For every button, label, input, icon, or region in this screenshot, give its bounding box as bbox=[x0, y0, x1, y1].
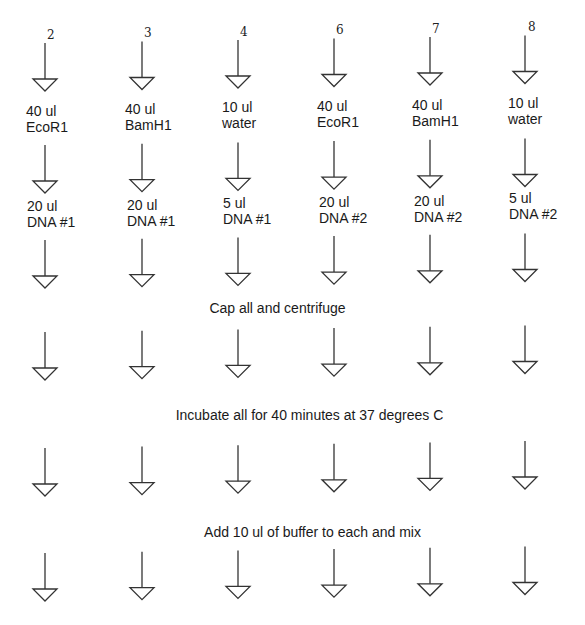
down-arrow-triangle-icon bbox=[33, 43, 57, 91]
down-arrow-triangle-icon bbox=[322, 444, 346, 492]
down-arrow-triangle-icon bbox=[33, 145, 57, 193]
enzyme-name: BamH1 bbox=[125, 117, 172, 133]
tube-number: 4 bbox=[240, 25, 248, 39]
dna-label: 20 ul DNA #2 bbox=[319, 194, 367, 226]
dna-name: DNA #2 bbox=[319, 210, 367, 226]
down-arrow-triangle-icon bbox=[322, 236, 346, 284]
down-arrow-triangle-icon bbox=[513, 234, 537, 282]
down-arrow-triangle-icon bbox=[130, 239, 154, 287]
down-arrow-triangle-icon bbox=[322, 141, 346, 189]
tube-number: 3 bbox=[144, 26, 152, 40]
arrow-head bbox=[130, 275, 154, 287]
arrow-head bbox=[322, 75, 346, 87]
down-arrow-triangle-icon bbox=[33, 240, 57, 288]
arrow-head bbox=[322, 272, 346, 284]
arrow-head bbox=[33, 276, 57, 288]
arrow-head bbox=[513, 362, 537, 374]
dna-volume: 20 ul bbox=[319, 194, 367, 210]
tube-number: 6 bbox=[336, 23, 344, 37]
arrow-head bbox=[130, 588, 154, 600]
arrow-head bbox=[33, 79, 57, 91]
dna-label: 5 ul DNA #1 bbox=[223, 195, 271, 227]
arrow-head bbox=[33, 589, 57, 601]
down-arrow-triangle-icon bbox=[418, 37, 442, 85]
dna-volume: 5 ul bbox=[223, 195, 271, 211]
arrow-head bbox=[33, 368, 57, 380]
down-arrow-triangle-icon bbox=[226, 550, 250, 598]
enzyme-label: 10 ul water bbox=[508, 95, 542, 127]
enzyme-name: BamH1 bbox=[412, 113, 459, 129]
arrow-head bbox=[513, 72, 537, 84]
dna-name: DNA #2 bbox=[509, 206, 557, 222]
dna-name: DNA #1 bbox=[127, 213, 175, 229]
arrow-head bbox=[130, 367, 154, 379]
step-cap-centrifuge: Cap all and centrifuge bbox=[0, 300, 570, 316]
enzyme-name: EcoR1 bbox=[317, 114, 359, 130]
down-arrow-triangle-icon bbox=[418, 140, 442, 188]
down-arrow-triangle-icon bbox=[418, 548, 442, 596]
arrow-head bbox=[322, 364, 346, 376]
dna-label: 20 ul DNA #2 bbox=[414, 193, 462, 225]
arrow-head bbox=[33, 181, 57, 193]
protocol-flow-diagram: 2 3 4 6 7 8 40 ul EcoR1 40 ul BamH1 10 u… bbox=[0, 0, 585, 625]
arrow-head bbox=[130, 483, 154, 495]
enzyme-label: 40 ul BamH1 bbox=[412, 97, 459, 129]
arrow-head bbox=[513, 583, 537, 595]
down-arrow-triangle-icon bbox=[130, 42, 154, 90]
arrow-head bbox=[130, 180, 154, 192]
enzyme-volume: 40 ul bbox=[317, 98, 359, 114]
arrow-head bbox=[418, 363, 442, 375]
enzyme-volume: 40 ul bbox=[412, 97, 459, 113]
arrow-head bbox=[418, 271, 442, 283]
arrow-head bbox=[418, 584, 442, 596]
down-arrow-triangle-icon bbox=[418, 442, 442, 490]
dna-volume: 20 ul bbox=[127, 197, 175, 213]
down-arrow-triangle-icon bbox=[418, 327, 442, 375]
down-arrow-triangle-icon bbox=[322, 549, 346, 597]
dna-volume: 20 ul bbox=[27, 198, 75, 214]
arrow-head bbox=[513, 477, 537, 489]
down-arrow-triangle-icon bbox=[130, 144, 154, 192]
down-arrow-triangle-icon bbox=[130, 447, 154, 495]
enzyme-volume: 10 ul bbox=[222, 99, 256, 115]
arrow-head bbox=[513, 270, 537, 282]
arrow-head bbox=[33, 484, 57, 496]
dna-label: 20 ul DNA #1 bbox=[27, 198, 75, 230]
arrow-head bbox=[418, 73, 442, 85]
arrow-head bbox=[418, 176, 442, 188]
down-arrow-triangle-icon bbox=[513, 547, 537, 595]
down-arrow-triangle-icon bbox=[322, 39, 346, 87]
arrow-head bbox=[226, 273, 250, 285]
tube-number: 2 bbox=[47, 28, 55, 42]
arrow-head bbox=[226, 365, 250, 377]
arrow-head bbox=[226, 76, 250, 88]
down-arrow-triangle-icon bbox=[322, 328, 346, 376]
arrow-head bbox=[226, 586, 250, 598]
enzyme-name: EcoR1 bbox=[26, 119, 68, 135]
enzyme-volume: 40 ul bbox=[125, 101, 172, 117]
down-arrow-triangle-icon bbox=[33, 332, 57, 380]
down-arrow-triangle-icon bbox=[130, 552, 154, 600]
arrow-head bbox=[226, 178, 250, 190]
arrow-head bbox=[322, 177, 346, 189]
tube-number: 8 bbox=[528, 20, 536, 34]
arrow-head bbox=[418, 478, 442, 490]
enzyme-label: 40 ul BamH1 bbox=[125, 101, 172, 133]
dna-name: DNA #2 bbox=[414, 209, 462, 225]
down-arrow-triangle-icon bbox=[226, 40, 250, 88]
enzyme-label: 40 ul EcoR1 bbox=[317, 98, 359, 130]
dna-name: DNA #1 bbox=[27, 214, 75, 230]
enzyme-volume: 40 ul bbox=[26, 103, 68, 119]
down-arrow-triangle-icon bbox=[33, 553, 57, 601]
down-arrow-triangle-icon bbox=[418, 235, 442, 283]
down-arrow-triangle-icon bbox=[130, 331, 154, 379]
arrow-head bbox=[513, 175, 537, 187]
step-add-buffer: Add 10 ul of buffer to each and mix bbox=[20, 524, 585, 540]
down-arrow-triangle-icon bbox=[513, 139, 537, 187]
tube-number: 7 bbox=[432, 22, 440, 36]
down-arrow-triangle-icon bbox=[33, 448, 57, 496]
enzyme-label: 10 ul water bbox=[222, 99, 256, 131]
step-incubate: Incubate all for 40 minutes at 37 degree… bbox=[17, 407, 585, 423]
dna-label: 20 ul DNA #1 bbox=[127, 197, 175, 229]
enzyme-name: water bbox=[508, 111, 542, 127]
